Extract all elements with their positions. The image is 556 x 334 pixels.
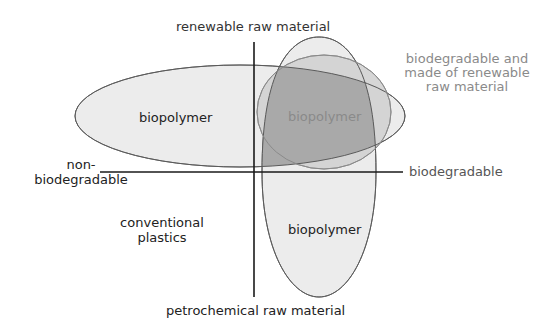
region-label-overlap-biopolymer: biopolymer <box>288 109 361 124</box>
callout-line2: made of renewable <box>392 66 542 80</box>
region-label-conventional-plastics: conventional plastics <box>112 215 212 245</box>
axis-label-left-line1: non- <box>26 157 136 172</box>
axis-label-right: biodegradable <box>409 164 503 179</box>
conventional-line2: plastics <box>112 230 212 245</box>
conventional-line1: conventional <box>112 215 212 230</box>
axis-label-top: renewable raw material <box>176 19 330 34</box>
callout-line1: biodegradable and <box>392 52 542 66</box>
callout-biodegradable-renewable: biodegradable and made of renewable raw … <box>392 52 542 94</box>
axis-label-left: non- biodegradable <box>26 157 136 187</box>
region-label-bottom-biopolymer: biopolymer <box>288 222 361 237</box>
axis-label-bottom: petrochemical raw material <box>166 303 345 318</box>
region-label-left-biopolymer: biopolymer <box>139 110 212 125</box>
biopolymer-classification-diagram: renewable raw material petrochemical raw… <box>0 0 556 334</box>
axis-label-left-line2: biodegradable <box>26 172 136 187</box>
callout-line3: raw material <box>392 80 542 94</box>
